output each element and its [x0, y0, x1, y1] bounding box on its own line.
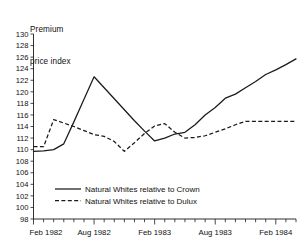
chart-legend: Natural Whites relative to CrownNatural … [55, 185, 200, 206]
x-axis-tick-label: Feb 1983 [138, 228, 171, 237]
y-axis-tick-label: 128 [16, 41, 29, 50]
y-axis-tick-label: 124 [16, 64, 29, 73]
y-axis-tick-label: 106 [16, 168, 29, 177]
chart-container: Premium price index 13012812612412212011… [0, 0, 303, 245]
y-axis-tick-group: 1301281261241221201181161141121101081061… [16, 30, 34, 224]
x-axis-tick-label: Aug 1983 [199, 228, 232, 237]
x-axis-label-group: Feb 1982Aug 1982Feb 1983Aug 1983Feb 1984 [30, 228, 293, 237]
y-axis-tick-label: 98 [20, 215, 28, 224]
legend-label: Natural Whites relative to Dulux [85, 197, 197, 206]
x-axis-tick-label: Aug 1982 [77, 228, 110, 237]
y-axis-tick-label: 104 [16, 180, 29, 189]
y-axis-tick-label: 126 [16, 53, 29, 62]
y-axis-tick-label: 110 [16, 145, 28, 154]
series-line-crown [34, 59, 297, 152]
y-axis-tick-label: 116 [16, 111, 28, 120]
y-axis-tick-label: 130 [16, 30, 29, 39]
y-axis-tick-label: 114 [16, 122, 28, 131]
x-axis-tick-label: Feb 1982 [30, 228, 63, 237]
y-axis-tick-label: 120 [16, 88, 29, 97]
x-axis-tick-group [34, 219, 297, 225]
legend-label: Natural Whites relative to Crown [85, 185, 200, 194]
y-axis-tick-label: 122 [16, 76, 29, 85]
y-axis-tick-label: 102 [16, 192, 29, 201]
y-axis-tick-label: 112 [16, 134, 28, 143]
y-axis-tick-label: 108 [16, 157, 29, 166]
y-axis-tick-label: 118 [16, 99, 28, 108]
line-chart-plot: 1301281261241221201181161141121101081061… [0, 0, 303, 245]
y-axis-tick-label: 100 [16, 203, 29, 212]
x-axis-tick-label: Feb 1984 [259, 228, 293, 237]
